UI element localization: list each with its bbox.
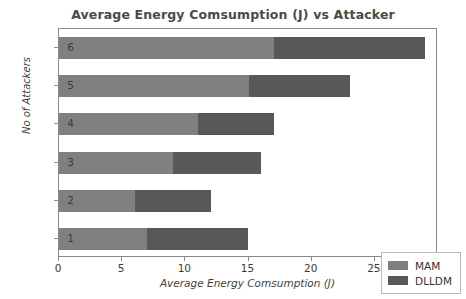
bar-segment-dlldm-3: [173, 152, 261, 174]
plot-area: [58, 28, 437, 257]
bar-segment-dlldm-1: [147, 228, 248, 250]
y-tick-mark-6: [54, 47, 58, 48]
bar-segment-dlldm-6: [274, 37, 426, 59]
x-tick-mark-20: [311, 257, 312, 261]
bar-segment-dlldm-2: [135, 190, 211, 212]
x-tick-mark-0: [58, 257, 59, 261]
legend-label-mam: MAM: [415, 260, 440, 272]
legend-swatch-mam: [388, 261, 408, 270]
y-tick-mark-3: [54, 162, 58, 163]
bar-segment-dlldm-5: [249, 75, 350, 97]
bar-row: [59, 190, 211, 212]
bar-segment-dlldm-4: [198, 113, 274, 135]
legend-swatch-dlldm: [388, 276, 408, 285]
bar-segment-mam-5: [59, 75, 249, 97]
legend-label-dlldm: DLLDM: [415, 275, 452, 287]
x-tick-mark-25: [374, 257, 375, 261]
bar-row: [59, 113, 274, 135]
chart-figure: Average Energy Comsumption (J) vs Attack…: [0, 0, 466, 299]
bar-row: [59, 37, 425, 59]
bar-row: [59, 152, 261, 174]
x-tick-label-0: 0: [43, 262, 73, 274]
legend-entry-dlldm: DLLDM: [388, 273, 452, 288]
y-tick-mark-5: [54, 85, 58, 86]
x-tick-label-20: 20: [296, 262, 326, 274]
bar-segment-mam-3: [59, 152, 173, 174]
y-axis-label: No of Attackers: [21, 36, 32, 156]
x-tick-label-5: 5: [106, 262, 136, 274]
y-tick-mark-2: [54, 200, 58, 201]
bar-row: [59, 75, 350, 97]
y-tick-mark-1: [54, 238, 58, 239]
x-tick-mark-10: [184, 257, 185, 261]
bar-row: [59, 228, 249, 250]
bar-segment-mam-4: [59, 113, 198, 135]
chart-legend: MAMDLLDM: [381, 252, 461, 294]
bar-segment-mam-6: [59, 37, 274, 59]
x-tick-mark-5: [121, 257, 122, 261]
x-tick-label-15: 15: [233, 262, 263, 274]
y-tick-mark-4: [54, 123, 58, 124]
legend-entry-mam: MAM: [388, 258, 452, 273]
x-tick-mark-15: [248, 257, 249, 261]
x-tick-label-10: 10: [169, 262, 199, 274]
chart-title: Average Energy Comsumption (J) vs Attack…: [0, 7, 466, 22]
